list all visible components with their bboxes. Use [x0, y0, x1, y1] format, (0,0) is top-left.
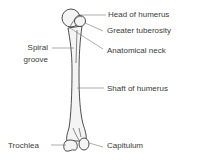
humerus-bone [62, 9, 89, 151]
label-shaft-of-humerus: Shaft of humerus [107, 84, 168, 94]
label-spiral-groove-line2: groove [24, 55, 48, 65]
label-capitulum: Capitulum [107, 141, 143, 151]
label-greater-tuberosity: Greater tuberosity [107, 26, 171, 36]
label-trochlea: Trochlea [8, 141, 39, 151]
humerus-illustration [0, 0, 201, 162]
label-head-of-humerus: Head of humerus [108, 10, 169, 20]
label-spiral-groove-line1: Spiral [28, 43, 48, 53]
humerus-diagram: Head of humerus Greater tuberosity Anato… [0, 0, 201, 162]
label-anatomical-neck: Anatomical neck [107, 46, 166, 56]
